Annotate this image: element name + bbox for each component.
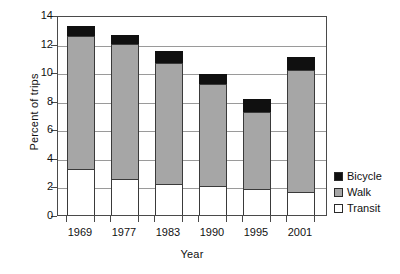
chart-figure: Percent of trips 14 12 10 8 6 4 2 0: [0, 0, 400, 274]
x-tick-mark: [138, 216, 139, 222]
x-tick-mark: [286, 216, 287, 222]
chart-legend: Bicycle Walk Transit: [334, 168, 400, 216]
x-tick-mark: [182, 216, 183, 222]
x-tick-mark: [226, 216, 227, 222]
legend-label-transit: Transit: [347, 203, 380, 214]
bar-segment-walk: [111, 44, 139, 179]
bar-1977[interactable]: [111, 35, 139, 215]
bar-segment-bicycle: [287, 57, 315, 70]
legend-item-transit[interactable]: Transit: [334, 200, 400, 216]
x-tick-mark: [66, 216, 67, 222]
bar-segment-bicycle: [111, 35, 139, 44]
legend-swatch-bicycle-icon: [334, 172, 343, 181]
x-tick-mark: [110, 216, 111, 222]
x-tick-mark: [94, 216, 95, 222]
bar-segment-walk: [155, 63, 183, 184]
x-tick-mark: [242, 216, 243, 222]
gridline-2: [58, 188, 326, 189]
bar-2001[interactable]: [287, 57, 315, 215]
gridline-10: [58, 74, 326, 75]
bar-1969[interactable]: [67, 26, 95, 215]
y-tick-label-8: 8: [13, 96, 53, 107]
y-tick-label-4: 4: [13, 153, 53, 164]
y-tick-label-2: 2: [13, 181, 53, 192]
bar-segment-bicycle: [243, 99, 271, 112]
bar-segment-walk: [243, 112, 271, 189]
legend-item-bicycle[interactable]: Bicycle: [334, 168, 400, 184]
legend-item-walk[interactable]: Walk: [334, 184, 400, 200]
bar-segment-transit: [243, 189, 271, 215]
bar-1990[interactable]: [199, 74, 227, 215]
y-tick-label-0: 0: [13, 210, 53, 221]
bar-segment-bicycle: [155, 51, 183, 63]
plot-area: [57, 16, 327, 216]
x-axis-title: Year: [57, 248, 327, 260]
gridline-12: [58, 46, 326, 47]
bar-segment-transit: [199, 186, 227, 215]
legend-label-walk: Walk: [347, 187, 371, 198]
bar-segment-bicycle: [67, 26, 95, 36]
bar-segment-transit: [67, 169, 95, 215]
bar-1995[interactable]: [243, 99, 271, 215]
bar-segment-walk: [287, 70, 315, 192]
bar-segment-bicycle: [199, 74, 227, 84]
x-tick-mark: [270, 216, 271, 222]
y-tick-label-6: 6: [13, 124, 53, 135]
y-tick-label-10: 10: [13, 67, 53, 78]
legend-swatch-walk-icon: [334, 188, 343, 197]
bar-segment-transit: [111, 179, 139, 215]
bar-segment-walk: [199, 84, 227, 187]
x-tick-mark: [314, 216, 315, 222]
y-tick-label-14: 14: [13, 10, 53, 21]
gridline-6: [58, 131, 326, 132]
x-tick-label-2001: 2001: [270, 226, 330, 238]
legend-swatch-transit-icon: [334, 204, 343, 213]
bar-segment-walk: [67, 36, 95, 169]
y-tick-label-12: 12: [13, 39, 53, 50]
bar-segment-transit: [155, 184, 183, 215]
legend-label-bicycle: Bicycle: [347, 171, 382, 182]
bar-1983[interactable]: [155, 51, 183, 215]
x-tick-mark: [154, 216, 155, 222]
bar-segment-transit: [287, 192, 315, 215]
gridline-4: [58, 160, 326, 161]
gridline-8: [58, 103, 326, 104]
x-tick-mark: [198, 216, 199, 222]
